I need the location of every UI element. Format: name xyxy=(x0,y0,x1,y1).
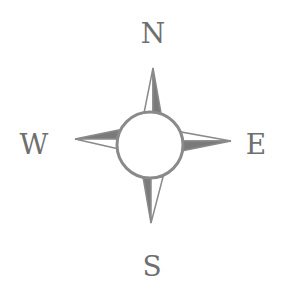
west-arrow-icon xyxy=(75,130,119,149)
south-arrow-icon xyxy=(143,177,163,223)
compass-rose: N W E S xyxy=(0,0,285,291)
north-arrow-icon xyxy=(144,68,161,113)
west-label: W xyxy=(20,131,49,159)
north-label: N xyxy=(141,20,166,48)
compass-center-ring xyxy=(117,112,183,178)
south-label: S xyxy=(142,253,161,281)
east-arrow-icon xyxy=(181,132,231,151)
east-label: E xyxy=(246,131,266,159)
